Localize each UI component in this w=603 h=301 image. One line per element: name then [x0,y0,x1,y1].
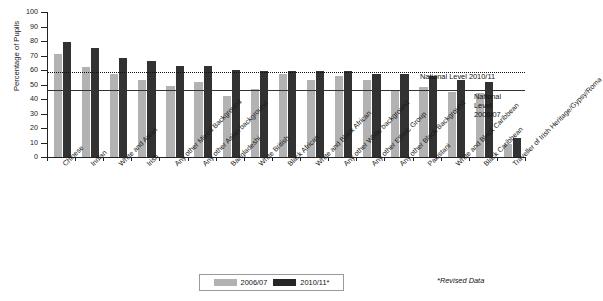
y-axis-tick-label: 60 [16,66,38,73]
bar [316,71,324,157]
annotation-line-1: National [474,92,501,101]
bar [63,42,71,157]
bar [54,54,62,157]
bar [457,80,465,157]
bar [344,71,352,157]
bar [288,71,296,157]
bar [110,74,118,157]
legend-swatch-icon-2006-07 [214,279,237,286]
y-axis-tick-label: 50 [16,81,38,88]
x-axis-tick [47,157,48,161]
y-axis-tick-label: 100 [16,8,38,15]
legend-item-2006-07: 2006/07 [214,279,268,287]
y-axis-tick-label: 40 [16,95,38,102]
legend: 2006/07 2010/11* [199,274,344,291]
reference-line-national-level-2006-07 [47,90,525,91]
bar [166,86,174,157]
bar [372,74,380,157]
annotation-national-level-2006-07: National Level 2006/07 [474,92,526,120]
bar [176,66,184,157]
legend-label-2010-11: 2010/11* [300,279,329,287]
y-axis-tick-label: 90 [16,23,38,30]
annotation-national-level-2010-11: National Level 2010/11 [420,72,495,81]
bar [119,58,127,157]
annotation-line-2: Level [474,101,492,110]
bar [429,76,437,157]
legend-swatch-icon-2010-11 [273,279,296,286]
bar [91,48,99,157]
y-axis-tick-label: 0 [16,153,38,160]
annotation-line-3: 2006/07 [474,110,501,119]
y-axis-tick-label: 70 [16,52,38,59]
bar [82,67,90,157]
y-axis-tick-label: 10 [16,139,38,146]
y-axis-tick-label: 20 [16,124,38,131]
legend-label-2006-07: 2006/07 [241,279,268,287]
bar [204,66,212,157]
y-axis-tick-label: 80 [16,37,38,44]
bar [400,74,408,157]
legend-item-2010-11: 2010/11* [273,279,329,287]
y-axis-tick-label: 30 [16,110,38,117]
footnote: *Revised Data [437,277,484,285]
x-axis-label: Traveller of Irish Heritage/Gypsy/Roma [512,76,603,168]
x-axis-line [47,157,525,158]
